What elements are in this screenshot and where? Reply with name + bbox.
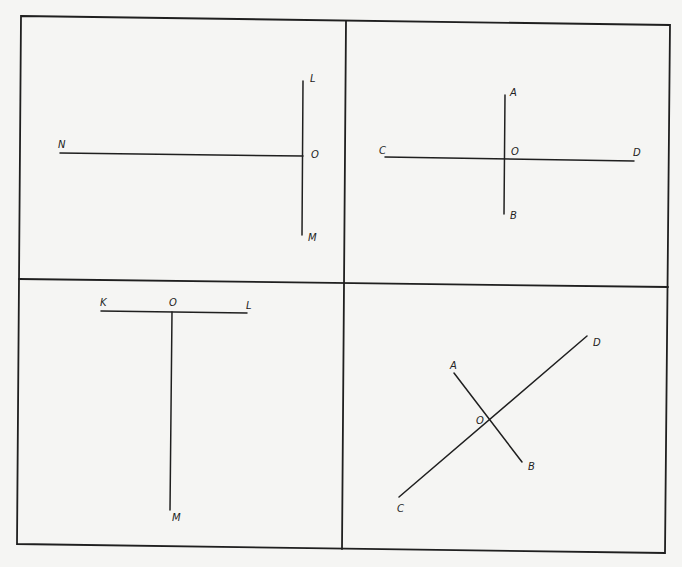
point-label-n: N [58,139,66,150]
point-label-d: D [633,147,641,158]
point-label-c: C [379,145,386,156]
point-label-m: M [172,512,181,523]
segment-AB [504,95,505,214]
panel-1-no-lm: NLOM [58,73,319,243]
segment-CD [385,157,634,161]
segment-OM [170,312,172,510]
point-label-a: A [509,87,517,98]
point-label-l: L [310,73,316,84]
point-label-o: O [311,149,319,160]
point-label-o: O [476,415,484,426]
segment-LM [302,81,303,235]
vertical-divider [342,21,346,549]
point-label-l: L [246,300,252,311]
panel-3-kl-om-t: KOLM [100,297,252,523]
point-label-o: O [169,297,177,308]
panel-2-ab-cd-cross: ACODB [379,87,641,221]
point-label-a: A [449,360,457,371]
point-label-o: O [511,146,519,157]
panel-4-oblique-cross: DAOBC [397,336,601,514]
segment-CD [399,336,587,497]
point-label-b: B [528,461,535,472]
point-label-c: C [397,503,404,514]
segment-AB [454,373,522,462]
point-label-k: K [100,297,108,308]
point-label-b: B [510,210,517,221]
perpendicular-lines-diagram: NLOM ACODB KOLM DAOBC [0,0,682,567]
segment-KL [101,311,247,313]
point-label-d: D [593,337,601,348]
point-label-m: M [308,232,317,243]
geometry-figure: NLOM ACODB KOLM DAOBC [0,0,682,567]
segment-NO [60,153,303,156]
